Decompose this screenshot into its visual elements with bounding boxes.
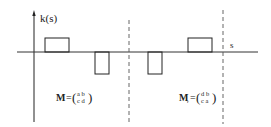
x-axis-label: s [230,40,234,50]
matrix-left-row1: a b [77,90,85,97]
matrix-right-close-paren: ) [212,90,216,105]
matrix-left-open-paren: ( [72,90,76,105]
y-axis-arrow-icon [32,10,35,16]
y-axis-label: k(s) [40,12,57,25]
matrix-left-close-paren: ) [88,90,92,105]
pulse-3 [148,52,162,74]
matrix-right-label: M r = ( d b c a ) [179,90,216,105]
matrix-left-label: M = ( a b c d ) [56,90,92,105]
pulse-4 [188,38,212,52]
matrix-left-name: M [56,92,66,103]
kernel-diagram: k(s) s M = ( a b c d ) M r = ( d b c a ) [0,0,271,127]
pulse-2 [95,52,109,74]
pulse-1 [45,38,69,52]
matrix-right-row1: d b [201,90,209,97]
matrix-left-row2: c d [77,97,86,104]
matrix-right-open-paren: ( [196,90,200,105]
matrix-right-row2: c a [201,97,209,104]
matrix-right-subscript: r [187,99,189,104]
